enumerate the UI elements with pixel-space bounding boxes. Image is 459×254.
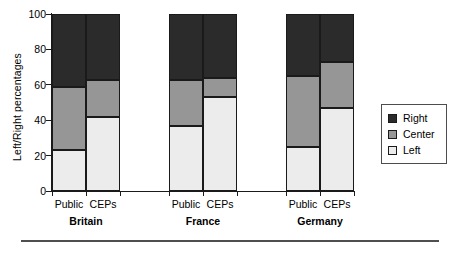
bottom-divider: [21, 240, 439, 242]
x-tick-mark-8: [320, 191, 321, 196]
segment-left: [52, 150, 86, 191]
bar-france-ceps[interactable]: [203, 14, 237, 191]
legend-label-left: Left: [403, 144, 421, 156]
group-label-germany: Germany: [260, 215, 380, 227]
segment-right: [169, 14, 203, 80]
x-tick-mark-3: [120, 191, 121, 196]
y-tick-mark-0: [46, 191, 51, 192]
y-tick-label-40: 40: [4, 115, 46, 125]
y-tick-mark-100: [46, 14, 51, 15]
segment-center: [169, 80, 203, 126]
bar-germany-public[interactable]: [286, 14, 320, 191]
y-tick-mark-20: [46, 155, 51, 156]
legend-item-center: Center: [388, 126, 440, 142]
segment-center: [320, 62, 354, 108]
y-tick-label-20: 20: [4, 151, 46, 161]
segment-right: [86, 14, 120, 80]
legend-label-right: Right: [403, 112, 428, 124]
legend-swatch-left-icon: [388, 146, 397, 155]
segment-left: [169, 126, 203, 192]
x-label-france-ceps: CEPs: [190, 198, 250, 210]
bar-france-public[interactable]: [169, 14, 203, 191]
segment-center: [286, 76, 320, 147]
bar-germany-ceps[interactable]: [320, 14, 354, 191]
y-tick-label-100: 100: [4, 9, 46, 19]
y-tick-label-60: 60: [4, 80, 46, 90]
y-tick-label-80: 80: [4, 44, 46, 54]
x-tick-mark-1: [52, 191, 53, 196]
segment-center: [86, 80, 120, 117]
y-tick-mark-60: [46, 84, 51, 85]
bar-group-germany: [286, 14, 354, 191]
segment-right: [320, 14, 354, 62]
segment-right: [286, 14, 320, 76]
segment-right: [203, 14, 237, 78]
segment-left: [86, 117, 120, 191]
segment-center: [52, 87, 86, 151]
y-tick-mark-40: [46, 120, 51, 121]
segment-left: [203, 97, 237, 191]
x-tick-mark-2: [86, 191, 87, 196]
segment-center: [203, 78, 237, 98]
segment-left: [320, 108, 354, 191]
x-tick-mark-6: [237, 191, 238, 196]
legend-item-right: Right: [388, 110, 440, 126]
x-tick-mark-7: [286, 191, 287, 196]
x-tick-mark-4: [169, 191, 170, 196]
x-label-germany-ceps: CEPs: [307, 198, 367, 210]
x-tick-mark-5: [203, 191, 204, 196]
group-label-britain: Britain: [26, 215, 146, 227]
legend-item-left: Left: [388, 142, 440, 158]
group-label-france: France: [143, 215, 263, 227]
bar-britain-public[interactable]: [52, 14, 86, 191]
bar-group-britain: [52, 14, 120, 191]
segment-right: [52, 14, 86, 87]
x-tick-mark-9: [354, 191, 355, 196]
y-tick-label-0: 0: [4, 186, 46, 196]
chart-figure: Left/Right percentages 100 80 60 40 20 0: [0, 0, 459, 254]
bar-britain-ceps[interactable]: [86, 14, 120, 191]
segment-left: [286, 147, 320, 191]
y-tick-mark-80: [46, 49, 51, 50]
legend-swatch-center-icon: [388, 130, 397, 139]
legend-label-center: Center: [403, 128, 435, 140]
chart-legend: Right Center Left: [381, 104, 447, 164]
legend-swatch-right-icon: [388, 114, 397, 123]
x-label-britain-ceps: CEPs: [73, 198, 133, 210]
bar-group-france: [169, 14, 237, 191]
